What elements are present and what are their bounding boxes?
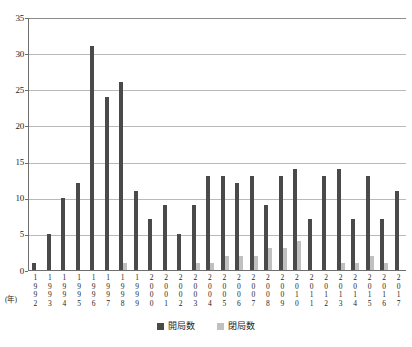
bar-group: [44, 18, 59, 270]
bar-close: [225, 256, 229, 270]
bar-close: [355, 263, 359, 270]
bar-group: [87, 18, 102, 270]
x-axis-tick-label: 1 9 9 8: [115, 272, 130, 318]
y-axis-tick-mark: [25, 235, 28, 236]
bar-close: [297, 241, 301, 270]
bar-group: [102, 18, 117, 270]
y-axis-tick-label: 5: [2, 230, 24, 239]
x-axis-tick-label: 2 0 1 5: [362, 272, 377, 318]
x-axis-tick-label: 2 0 1 7: [391, 272, 406, 318]
x-axis-labels: 1 9 9 21 9 9 31 9 9 41 9 9 51 9 9 61 9 9…: [28, 272, 406, 318]
bar-group: [334, 18, 349, 270]
bar-group: [145, 18, 160, 270]
bar-close: [196, 263, 200, 270]
y-axis-tick-label: 35: [2, 14, 24, 23]
y-axis-tick-label: 0: [2, 267, 24, 276]
bar-group: [58, 18, 73, 270]
bar-group: [276, 18, 291, 270]
bar-close: [341, 263, 345, 270]
y-axis-tick-label: 30: [2, 50, 24, 59]
y-axis-tick-label: 25: [2, 86, 24, 95]
bar-close: [268, 248, 272, 270]
legend-item-close: 閉局数: [217, 322, 255, 331]
bar-close: [384, 263, 388, 270]
legend-swatch-open-icon: [157, 323, 164, 330]
x-axis-tick-label: 2 0 0 3: [188, 272, 203, 318]
bar-close: [123, 263, 127, 270]
bar-group: [203, 18, 218, 270]
x-axis-tick-label: 2 0 0 1: [159, 272, 174, 318]
x-axis-tick-label: 2 0 1 0: [290, 272, 305, 318]
bars-layer: [29, 18, 406, 270]
bar-close: [283, 248, 287, 270]
bar-open: [148, 219, 152, 270]
y-axis-tick-label: 10: [2, 194, 24, 203]
x-axis-tick-label: 2 0 0 2: [173, 272, 188, 318]
bar-open: [395, 191, 399, 271]
bar-group: [363, 18, 378, 270]
bar-group: [377, 18, 392, 270]
bar-group: [261, 18, 276, 270]
legend: 開局数 閉局数: [0, 322, 412, 331]
bar-open: [177, 234, 181, 270]
y-axis-tick-label: 15: [2, 158, 24, 167]
x-axis-tick-label: 2 0 1 2: [319, 272, 334, 318]
x-axis-tick-label: 2 0 0 6: [231, 272, 246, 318]
legend-label-close: 閉局数: [228, 322, 255, 331]
bar-open: [105, 97, 109, 270]
bar-open: [32, 263, 36, 270]
x-axis-tick-label: 1 9 9 3: [43, 272, 58, 318]
y-axis-tick-mark: [25, 126, 28, 127]
bar-group: [174, 18, 189, 270]
bar-close: [210, 263, 214, 270]
y-axis-tick-mark: [25, 199, 28, 200]
x-axis-tick-label: 1 9 9 5: [72, 272, 87, 318]
bar-open: [337, 169, 341, 270]
y-axis-tick-mark: [25, 90, 28, 91]
x-axis-tick-label: 2 0 0 0: [144, 272, 159, 318]
x-axis-tick-label: 2 0 0 4: [202, 272, 217, 318]
x-axis-tick-label: 2 0 1 6: [377, 272, 392, 318]
bar-group: [247, 18, 262, 270]
bar-group: [29, 18, 44, 270]
bar-chart: 35302520151050 1 9 9 21 9 9 31 9 9 41 9 …: [0, 0, 412, 347]
x-axis-tick-label: 2 0 1 1: [304, 272, 319, 318]
bar-open: [90, 46, 94, 270]
x-axis-tick-label: 1 9 9 6: [86, 272, 101, 318]
legend-swatch-close-icon: [217, 323, 224, 330]
bar-group: [290, 18, 305, 270]
bar-open: [76, 183, 80, 270]
bar-open: [192, 205, 196, 270]
x-axis-unit-label: (年): [5, 296, 17, 305]
bar-group: [319, 18, 334, 270]
bar-group: [116, 18, 131, 270]
bar-open: [308, 219, 312, 270]
y-axis-tick-mark: [25, 18, 28, 19]
bar-close: [370, 256, 374, 270]
x-axis-tick-label: 2 0 0 8: [261, 272, 276, 318]
bar-group: [348, 18, 363, 270]
x-axis-tick-label: 2 0 1 3: [333, 272, 348, 318]
bar-open: [119, 82, 123, 270]
plot-area: [28, 18, 406, 271]
bar-open: [322, 176, 326, 270]
y-axis-tick-label: 20: [2, 122, 24, 131]
bar-open: [163, 205, 167, 270]
y-axis-tick-mark: [25, 54, 28, 55]
x-axis-tick-label: 1 9 9 9: [130, 272, 145, 318]
bar-open: [61, 198, 65, 270]
bar-open: [206, 176, 210, 270]
x-axis-tick-label: 1 9 9 7: [101, 272, 116, 318]
bar-open: [134, 191, 138, 271]
bar-group: [189, 18, 204, 270]
x-axis-tick-label: 2 0 0 5: [217, 272, 232, 318]
bar-group: [218, 18, 233, 270]
legend-item-open: 開局数: [157, 322, 195, 331]
bar-group: [73, 18, 88, 270]
x-axis-tick-label: 2 0 1 4: [348, 272, 363, 318]
x-axis-tick-label: 2 0 0 9: [275, 272, 290, 318]
x-axis-tick-label: 1 9 9 4: [57, 272, 72, 318]
bar-group: [392, 18, 407, 270]
x-axis-tick-label: 2 0 0 7: [246, 272, 261, 318]
x-axis-tick-label: 1 9 9 2: [28, 272, 43, 318]
